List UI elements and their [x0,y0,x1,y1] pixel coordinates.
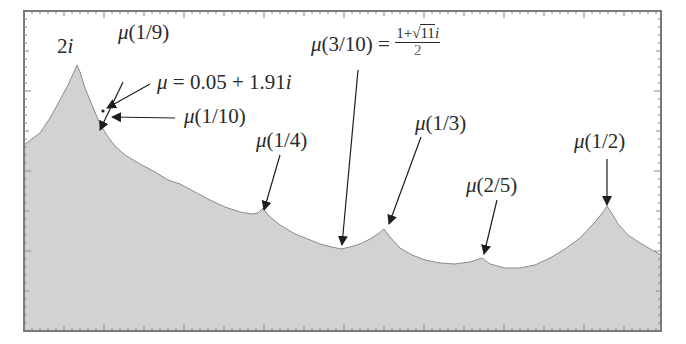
label-mu-1-3: μ(1/3) [415,113,466,134]
arrow-mu-1-4 [264,155,280,210]
arrow-mu-1-3 [389,137,421,224]
label-mu-1-2: μ(1/2) [574,131,625,152]
label-2i: 2i [57,36,73,57]
arrow-mu-2-5 [484,200,497,254]
arrow-mu-1-10 [112,117,175,118]
arrow-mu-point [107,84,150,108]
mu-point-dot [101,109,104,112]
label-mu-point-value: μ = 0.05 + 1.91i [157,72,292,93]
label-mu-1-4: μ(1/4) [256,130,307,151]
shaded-region [24,65,661,331]
arrow-mu-3-10 [342,70,358,245]
label-mu-1-10: μ(1/10) [184,106,246,127]
fraction: 1+√11i2 [395,26,440,59]
label-mu-2-5: μ(2/5) [466,175,517,196]
label-mu-3-10: μ(3/10) = 1+√11i2 [311,30,440,63]
label-mu-1-9: μ(1/9) [118,22,169,43]
